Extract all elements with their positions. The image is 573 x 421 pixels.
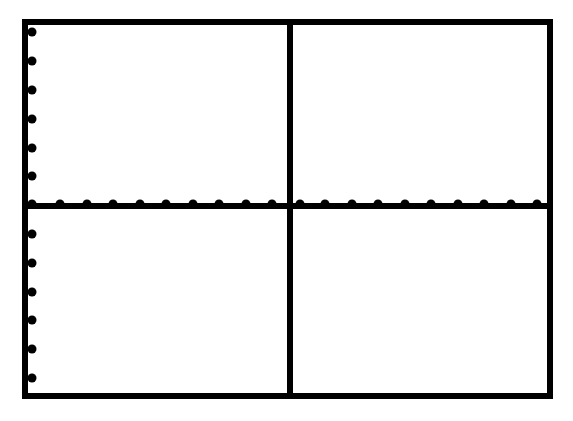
y-axis-tick-mark xyxy=(28,316,37,325)
y-axis-tick-mark xyxy=(28,345,37,354)
y-axis-tick-mark xyxy=(28,230,37,239)
x-axis-tick-mark xyxy=(480,200,489,209)
x-axis-tick-mark xyxy=(28,200,37,209)
x-axis-tick-mark xyxy=(401,200,410,209)
y-axis-tick-mark xyxy=(28,374,37,383)
x-axis-tick-mark xyxy=(427,200,436,209)
x-axis-tick-mark xyxy=(533,200,542,209)
x-axis-tick-mark xyxy=(83,200,92,209)
x-axis-tick-mark xyxy=(109,200,118,209)
x-axis-tick-mark xyxy=(162,200,171,209)
y-axis-tick-mark xyxy=(28,28,37,37)
y-axis-tick-mark xyxy=(28,115,37,124)
x-axis-tick-mark xyxy=(242,200,251,209)
y-axis-tick-mark xyxy=(28,144,37,153)
x-axis-tick-mark xyxy=(136,200,145,209)
x-axis-tick-mark xyxy=(56,200,65,209)
x-axis-tick-mark xyxy=(348,200,357,209)
y-axis-tick-mark xyxy=(28,57,37,66)
x-axis-tick-mark xyxy=(374,200,383,209)
x-axis-tick-mark xyxy=(296,200,305,209)
y-axis-tick-mark xyxy=(28,288,37,297)
grid-canvas xyxy=(0,0,573,421)
x-axis-tick-mark xyxy=(189,200,198,209)
y-axis-tick-mark xyxy=(28,172,37,181)
x-axis-tick-mark xyxy=(268,200,277,209)
x-axis-tick-mark xyxy=(321,200,330,209)
y-axis-tick-mark xyxy=(28,259,37,268)
x-axis-tick-mark xyxy=(507,200,516,209)
y-axis-tick-mark xyxy=(28,86,37,95)
x-axis-tick-mark xyxy=(215,200,224,209)
x-axis-tick-mark xyxy=(454,200,463,209)
